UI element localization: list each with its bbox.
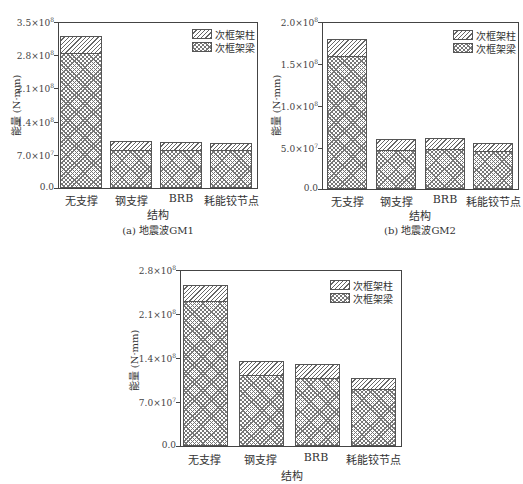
bar-c-no-brace (183, 285, 228, 446)
tick-mark (318, 64, 322, 65)
ytick: 2.0×108 (281, 16, 318, 28)
ytick: 3.5×108 (17, 16, 54, 28)
bar-a-energy-hinge (210, 143, 252, 188)
x-axis-title-c: 结构 (262, 467, 322, 483)
crosshatch-swatch (192, 42, 212, 52)
legend-item-beam: 次框架梁 (453, 42, 516, 54)
chart-b: 次框架柱 次框架梁 2.0×108 1.5×108 1.0×108 5.0×10… (262, 0, 523, 230)
legend-label: 次框架梁 (215, 40, 255, 55)
ytick: 1.5×108 (281, 58, 318, 70)
bar-b-steel-brace (376, 139, 416, 189)
tick-mark (54, 155, 58, 156)
xtick-label: 无支撑 (180, 451, 228, 467)
tick-mark (318, 189, 322, 190)
crosshatch-swatch (453, 43, 473, 53)
bar-a-no-brace (60, 36, 102, 188)
legend-item-column: 次框架柱 (192, 28, 255, 40)
plot-area-c: 次框架柱 次框架梁 (180, 270, 402, 447)
segment-beam (183, 301, 228, 446)
ytick: 2.1×108 (139, 308, 176, 320)
tick-mark (318, 106, 322, 107)
ytick: 0.0 (40, 182, 54, 192)
plot-area-a: 次框架柱 次框架梁 (58, 22, 258, 189)
legend-a: 次框架柱 次框架梁 (192, 28, 255, 54)
crosshatch-swatch (330, 293, 350, 303)
ytick: 7.0×107 (17, 149, 54, 161)
segment-beam (295, 378, 340, 446)
xtick-label: 耗能铰节点 (342, 451, 404, 467)
segment-column (183, 285, 228, 302)
tick-mark (54, 122, 58, 123)
ytick: 5.0×107 (281, 142, 318, 154)
segment-column (60, 36, 102, 54)
legend-item-beam: 次框架梁 (330, 292, 393, 304)
x-axis-title-a: 结构 (128, 206, 188, 222)
segment-column (295, 364, 340, 379)
chart-c: 次框架柱 次框架梁 2.8×108 2.1×108 1.4×108 7.0×10… (130, 255, 410, 484)
bar-b-brb (425, 138, 465, 189)
tick-mark (54, 22, 58, 23)
caption-b: (b) 地震波GM2 (360, 222, 480, 237)
segment-beam (110, 150, 152, 188)
legend-item-beam: 次框架梁 (192, 41, 255, 53)
diagonal-hatch-swatch (192, 29, 212, 39)
segment-beam (239, 375, 284, 446)
tick-mark (54, 188, 58, 189)
ytick: 0.0 (162, 440, 176, 450)
y-axis-title-a: 能量 (N·mm) (8, 71, 23, 141)
legend-item-column: 次框架柱 (453, 29, 516, 41)
ytick: 2.8×108 (139, 264, 176, 276)
bar-c-energy-hinge (351, 378, 396, 446)
chart-a: 次框架柱 次框架梁 3.5×108 2.8×108 2.1×108 1.4×10… (0, 0, 262, 230)
segment-beam (210, 150, 252, 188)
ytick: 1.0×108 (281, 100, 318, 112)
segment-column (327, 39, 367, 57)
xtick-label: 耗能铰节点 (464, 193, 522, 209)
y-axis-title-b: 能量 (N·mm) (268, 71, 283, 141)
tick-mark (318, 148, 322, 149)
x-axis-title-b: 结构 (390, 207, 450, 223)
legend-label: 次框架梁 (353, 291, 393, 306)
tick-mark (176, 402, 180, 403)
bar-c-steel-brace (239, 361, 284, 446)
segment-beam (473, 151, 513, 189)
segment-beam (425, 149, 465, 189)
legend-item-column: 次框架柱 (330, 279, 393, 291)
segment-beam (327, 56, 367, 189)
segment-beam (351, 389, 396, 446)
segment-beam (376, 150, 416, 189)
xtick-label: 钢支撑 (236, 451, 284, 467)
legend-c: 次框架柱 次框架梁 (330, 279, 393, 305)
ytick: 7.0×107 (139, 396, 176, 408)
ytick: 2.8×108 (17, 49, 54, 61)
bar-b-no-brace (327, 39, 367, 189)
ytick: 1.4×108 (139, 352, 176, 364)
segment-beam (160, 150, 202, 188)
diagonal-hatch-swatch (453, 30, 473, 40)
xtick-label: BRB (292, 451, 340, 464)
diagonal-hatch-swatch (330, 280, 350, 290)
legend-b: 次框架柱 次框架梁 (453, 29, 516, 55)
tick-mark (176, 446, 180, 447)
bar-b-energy-hinge (473, 143, 513, 189)
xtick-label: BRB (160, 192, 202, 205)
bar-a-steel-brace (110, 141, 152, 188)
tick-mark (54, 55, 58, 56)
plot-area-b: 次框架柱 次框架梁 (322, 22, 519, 190)
bar-c-brb (295, 364, 340, 446)
tick-mark (176, 314, 180, 315)
tick-mark (176, 358, 180, 359)
xtick-label: 无支撑 (60, 192, 102, 208)
segment-beam (60, 53, 102, 188)
y-axis-title-c: 能量 (N·mm) (126, 326, 141, 396)
segment-column (239, 361, 284, 376)
xtick-label: BRB (424, 193, 466, 206)
tick-mark (54, 88, 58, 89)
ytick: 0.0 (304, 183, 318, 193)
caption-a: (a) 地震波GM1 (98, 222, 218, 237)
tick-mark (176, 270, 180, 271)
legend-label: 次框架梁 (476, 41, 516, 56)
bar-a-brb (160, 142, 202, 188)
xtick-label: 耗能铰节点 (202, 192, 260, 208)
xtick-label: 无支撑 (326, 193, 368, 209)
